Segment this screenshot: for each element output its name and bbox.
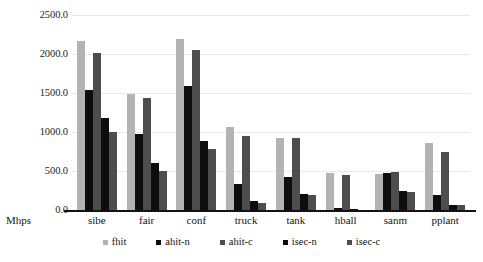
bar-fhit-sanm xyxy=(375,174,383,210)
legend-swatch-icon xyxy=(156,240,161,245)
legend-label: ahit-n xyxy=(165,236,190,248)
y-axis-tick-label: 2500.0 xyxy=(2,10,68,21)
bar-fhit-conf xyxy=(176,39,184,210)
bar-isec-n-sibe xyxy=(101,118,109,210)
bar-fhit-tank xyxy=(276,138,284,210)
x-axis-label-conf: conf xyxy=(172,212,222,228)
legend-item-isec-c[interactable]: isec-c xyxy=(347,236,380,248)
bar-isec-c-sibe xyxy=(109,132,117,210)
x-axis-label-sibe: sibe xyxy=(72,212,122,228)
legend-item-ahit-n[interactable]: ahit-n xyxy=(156,236,190,248)
x-axis-label-fair: fair xyxy=(122,212,172,228)
bar-isec-c-conf xyxy=(208,149,216,210)
x-axis-category-labels: sibefairconftrucktankhballsanmpplant xyxy=(72,212,470,230)
bar-isec-c-sanm xyxy=(407,192,415,210)
bar-isec-n-truck xyxy=(250,201,258,210)
y-axis-tick-label: 1500.0 xyxy=(2,88,68,99)
bar-chart: 0.0500.01000.01500.02000.02500.0 sibefai… xyxy=(0,0,483,262)
y-axis-tick-label: 2000.0 xyxy=(2,49,68,60)
bar-isec-n-sanm xyxy=(399,191,407,210)
bar-ahit-c-sanm xyxy=(391,172,399,210)
bar-group xyxy=(172,15,222,210)
bar-fhit-pplant xyxy=(425,143,433,210)
x-axis-label-truck: truck xyxy=(221,212,271,228)
bar-group xyxy=(221,15,271,210)
bar-group xyxy=(321,15,371,210)
legend-swatch-icon xyxy=(283,240,288,245)
bar-ahit-c-fair xyxy=(143,98,151,210)
bar-isec-n-conf xyxy=(200,141,208,210)
bar-group xyxy=(72,15,122,210)
bar-fhit-sibe xyxy=(77,41,85,210)
chart-legend: fhitahit-nahit-cisec-nisec-c xyxy=(0,236,483,248)
bar-ahit-c-sibe xyxy=(93,53,101,210)
legend-item-isec-n[interactable]: isec-n xyxy=(283,236,317,248)
bar-fhit-fair xyxy=(127,94,135,210)
bar-group xyxy=(371,15,421,210)
bar-group xyxy=(420,15,470,210)
bar-fhit-truck xyxy=(226,127,234,210)
bar-ahit-n-fair xyxy=(135,134,143,210)
bar-isec-n-tank xyxy=(300,194,308,210)
bar-ahit-n-sibe xyxy=(85,90,93,211)
legend-item-ahit-c[interactable]: ahit-c xyxy=(220,236,253,248)
x-axis-label-sanm: sanm xyxy=(371,212,421,228)
bar-group xyxy=(122,15,172,210)
bar-ahit-c-truck xyxy=(242,136,250,210)
legend-label: fhit xyxy=(112,236,127,248)
bar-isec-c-fair xyxy=(159,171,167,210)
legend-label: ahit-c xyxy=(229,236,253,248)
bar-ahit-n-pplant xyxy=(433,195,441,210)
bar-isec-c-truck xyxy=(258,203,266,210)
y-axis-tick-label: 500.0 xyxy=(2,166,68,177)
bar-ahit-c-conf xyxy=(192,50,200,210)
x-axis-label-tank: tank xyxy=(271,212,321,228)
bar-ahit-c-hball xyxy=(342,175,350,210)
bar-ahit-n-conf xyxy=(184,86,192,210)
x-axis-label-hball: hball xyxy=(321,212,371,228)
x-axis-label-pplant: pplant xyxy=(420,212,470,228)
bar-isec-n-fair xyxy=(151,163,159,210)
bar-isec-c-tank xyxy=(308,195,316,210)
bar-ahit-n-sanm xyxy=(383,173,391,210)
bar-ahit-n-tank xyxy=(284,177,292,210)
legend-swatch-icon xyxy=(103,240,108,245)
plot-area xyxy=(72,15,470,210)
legend-swatch-icon xyxy=(347,240,352,245)
legend-item-fhit[interactable]: fhit xyxy=(103,236,127,248)
bar-group xyxy=(271,15,321,210)
legend-label: isec-n xyxy=(292,236,317,248)
legend-swatch-icon xyxy=(220,240,225,245)
bar-fhit-hball xyxy=(326,173,334,210)
axis-title-mhps: Mhps xyxy=(6,212,31,228)
y-axis-tick-label: 1000.0 xyxy=(2,127,68,138)
legend-label: isec-c xyxy=(356,236,380,248)
bar-ahit-c-tank xyxy=(292,138,300,210)
bar-ahit-n-truck xyxy=(234,184,242,210)
bar-ahit-c-pplant xyxy=(441,152,449,211)
